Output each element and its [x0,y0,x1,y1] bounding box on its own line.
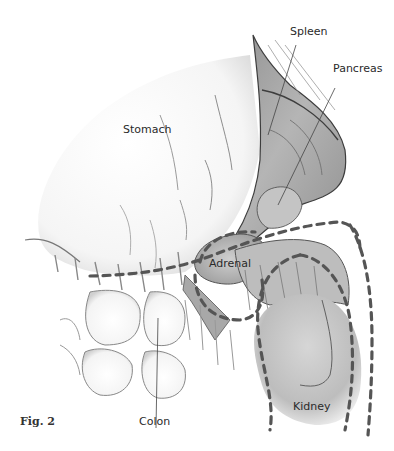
label-pancreas: Pancreas [333,62,382,75]
pancreas-shape [257,187,302,228]
label-kidney: Kidney [293,400,331,413]
label-colon: Colon [139,415,170,428]
label-adrenal: Adrenal [209,257,251,270]
label-stomach: Stomach [123,123,172,136]
label-spleen: Spleen [290,25,328,38]
figure-caption: Fig. 2 [20,415,55,428]
